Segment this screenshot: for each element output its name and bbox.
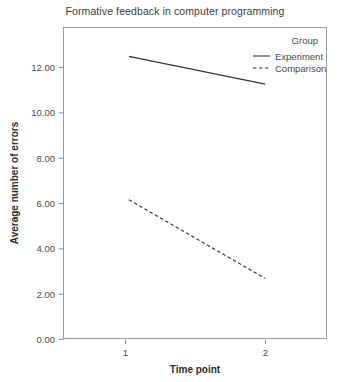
legend-label-comparison: Comparison <box>275 63 326 74</box>
y-tick-label-4: 4.00 <box>37 243 56 254</box>
plot-frame <box>64 28 327 339</box>
series-line-experiment <box>129 56 265 84</box>
y-axis-tick-labels: 12.00 10.00 8.00 6.00 4.00 2.00 0.00 <box>31 62 55 345</box>
y-axis-ticks <box>59 68 64 340</box>
plot-area: 12.00 10.00 8.00 6.00 4.00 2.00 0.00 Ave… <box>0 0 350 382</box>
y-tick-label-8: 8.00 <box>37 153 56 164</box>
x-axis-title: Time point <box>170 364 221 375</box>
x-tick-label-1: 1 <box>123 347 128 358</box>
data-series-group <box>129 56 265 278</box>
y-tick-label-2: 2.00 <box>37 289 56 300</box>
y-tick-label-12: 12.00 <box>31 62 55 73</box>
x-axis-ticks <box>126 340 266 345</box>
y-tick-label-0: 0.00 <box>37 334 56 345</box>
x-axis-tick-labels: 1 2 <box>123 347 268 358</box>
legend: Group Experiment Comparison <box>253 35 326 74</box>
y-tick-label-6: 6.00 <box>37 198 56 209</box>
y-tick-label-10: 10.00 <box>31 107 55 118</box>
x-tick-label-2: 2 <box>263 347 268 358</box>
legend-label-experiment: Experiment <box>275 51 323 62</box>
y-axis-title: Average number of errors <box>9 121 20 244</box>
legend-title: Group <box>292 35 318 46</box>
series-line-comparison <box>129 200 265 279</box>
chart-figure: Formative feedback in computer programmi… <box>0 0 350 382</box>
